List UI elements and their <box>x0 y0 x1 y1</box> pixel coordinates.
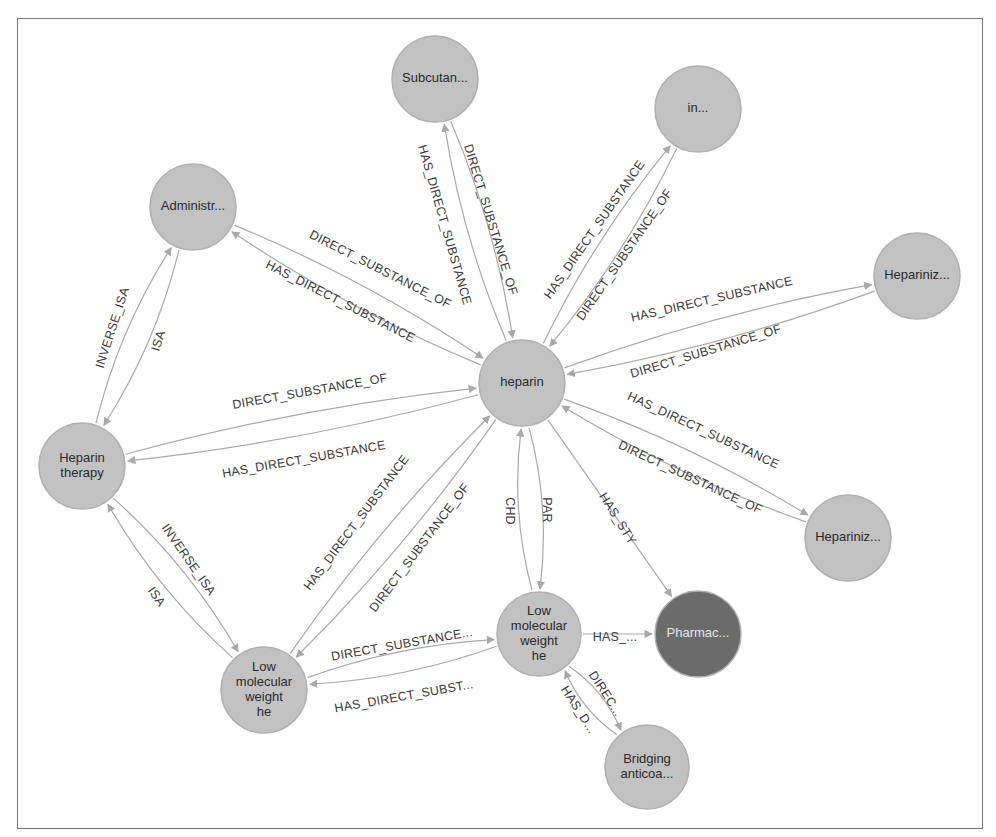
knowledge-graph[interactable]: DIRECT_SUBSTANCE_OFHAS_DIRECT_SUBSTANCEH… <box>0 0 996 837</box>
node-lmw-right[interactable]: Lowmolecularweighthe <box>497 592 581 676</box>
node-hepariniz-bottom[interactable]: Hepariniz... <box>805 495 891 581</box>
node-label: Subcutan... <box>402 70 468 85</box>
edge-label: HAS_DIRECT_SUBSTANCE <box>630 274 795 325</box>
edge-label: DIRECT_SUBSTANCE_OF <box>629 322 783 381</box>
edge-label: DIREC... <box>586 668 625 718</box>
edge-label: PAR <box>540 497 554 522</box>
node-label: heparin <box>500 374 543 389</box>
nodes-layer: heparinSubcutan...in...Administr...Hepar… <box>39 36 960 809</box>
node-subcutan[interactable]: Subcutan... <box>392 36 478 122</box>
edge-label: INVERSE_ISA <box>93 285 132 370</box>
node-label: Hepariniz... <box>815 529 881 544</box>
edge-label: CHD <box>503 497 517 525</box>
node-label: in... <box>688 100 709 115</box>
node-hepariniz-top[interactable]: Hepariniz... <box>874 233 960 319</box>
edge-has-direct-substance[interactable] <box>451 121 513 338</box>
node-heparin-therapy[interactable]: Heparintherapy <box>39 423 125 509</box>
edge-label: INVERSE_ISA <box>159 521 219 598</box>
edge-label: HAS_DIRECT_SUBSTANCE <box>541 158 647 302</box>
edge-label: DIRECT_SUBSTANCE... <box>330 625 473 664</box>
edge-label: HAS_D... <box>558 683 599 736</box>
node-in[interactable]: in... <box>655 66 741 152</box>
edge-label: HAS_STY <box>596 490 639 547</box>
node-heparin[interactable]: heparin <box>479 340 565 426</box>
edge-label: DIRECT_SUBSTANCE_OF <box>461 143 520 297</box>
edge-inverse-isa[interactable] <box>113 498 238 651</box>
node-label: Pharmac... <box>667 625 730 640</box>
node-label: Heparintherapy <box>59 450 105 480</box>
edge-label: HAS_DIRECT_SUBST... <box>333 677 474 715</box>
node-label: Administr... <box>161 198 225 213</box>
node-label: Hepariniz... <box>884 267 950 282</box>
edge-label: DIRECT_SUBSTANCE_OF <box>231 371 388 412</box>
node-bridging[interactable]: Bridginganticoa... <box>605 725 689 809</box>
node-lmw-left[interactable]: Lowmolecularweighthe <box>221 647 307 733</box>
node-label: Bridginganticoa... <box>621 751 674 781</box>
node-pharmac[interactable]: Pharmac... <box>655 591 741 677</box>
node-administr[interactable]: Administr... <box>150 164 236 250</box>
edge-direct-substance-of[interactable] <box>128 395 479 461</box>
edge-chd[interactable] <box>518 429 532 590</box>
edge-label: ISA <box>148 328 168 352</box>
edge-label: HAS_... <box>593 630 637 644</box>
edge-label: DIRECT_SUBSTANCE_OF <box>367 481 473 615</box>
